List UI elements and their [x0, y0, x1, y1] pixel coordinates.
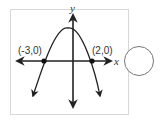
point-neg3-0 — [41, 58, 46, 63]
answer-choice-circle[interactable] — [124, 46, 154, 76]
point-2-0 — [89, 58, 94, 63]
x-axis-label: x — [114, 56, 119, 67]
point-label-right: (2,0) — [92, 46, 113, 56]
y-axis-label: y — [70, 3, 75, 14]
point-label-left: (-3,0) — [18, 46, 42, 56]
